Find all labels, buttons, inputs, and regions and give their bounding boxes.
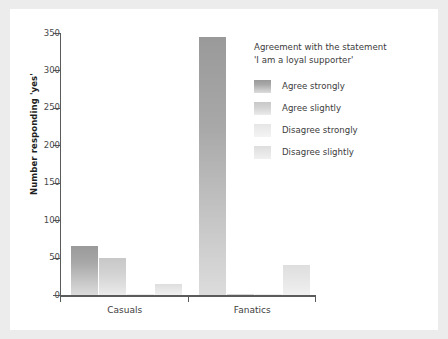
x-tick-mark [60, 296, 61, 302]
bar [99, 258, 126, 295]
legend: Agreement with the statement 'I am a loy… [254, 41, 434, 163]
legend-item[interactable]: Agree strongly [254, 75, 434, 97]
x-tick-mark [188, 296, 189, 302]
y-tick-label-wrap: 50 [10, 253, 60, 262]
y-tick-label-wrap: 100 [10, 216, 60, 225]
legend-swatch-icon [254, 102, 271, 115]
legend-item-label: Disagree strongly [282, 125, 358, 135]
legend-item-label: Agree strongly [282, 81, 345, 91]
chart-card: Number responding 'yes' 0501001502002503… [10, 9, 438, 330]
y-tick-label-wrap: 150 [10, 178, 60, 187]
legend-item-label: Disagree slightly [282, 147, 354, 157]
y-tick-label: 300 [30, 66, 60, 75]
bar-chart: Number responding 'yes' 0501001502002503… [10, 9, 438, 330]
y-tick-label: 0 [30, 291, 60, 300]
x-tick-mark [315, 296, 316, 302]
legend-swatch-icon [254, 146, 271, 159]
y-tick-label-wrap: 0 [10, 291, 60, 300]
legend-item[interactable]: Disagree slightly [254, 141, 434, 163]
legend-item-label: Agree slightly [282, 103, 341, 113]
legend-item[interactable]: Agree slightly [254, 97, 434, 119]
y-tick-label: 250 [30, 103, 60, 112]
y-tick-label: 350 [30, 29, 60, 38]
legend-item[interactable]: Disagree strongly [254, 119, 434, 141]
x-tick-label: Fanatics [189, 305, 317, 315]
legend-entries: Agree stronglyAgree slightlyDisagree str… [254, 75, 434, 163]
bar [71, 246, 98, 295]
legend-swatch-icon [254, 80, 271, 93]
y-tick-label-wrap: 200 [10, 141, 60, 150]
y-tick-label-wrap: 250 [10, 103, 60, 112]
x-tick-label: Casuals [61, 305, 189, 315]
y-tick-label: 50 [30, 253, 60, 262]
bar [199, 37, 226, 295]
y-tick-label-wrap: 300 [10, 66, 60, 75]
legend-title-line-2: 'I am a loyal supporter' [254, 54, 434, 67]
legend-title: Agreement with the statement 'I am a loy… [254, 41, 434, 66]
y-tick-label-wrap: 350 [10, 29, 60, 38]
legend-swatch-icon [254, 124, 271, 137]
bar [155, 284, 182, 295]
bar [283, 265, 310, 295]
y-tick-label: 150 [30, 178, 60, 187]
y-tick-label: 200 [30, 141, 60, 150]
y-tick-label: 100 [30, 216, 60, 225]
legend-title-line-1: Agreement with the statement [254, 41, 434, 54]
page-background: Number responding 'yes' 0501001502002503… [0, 0, 448, 339]
